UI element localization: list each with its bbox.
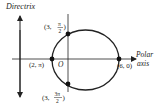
polar-axis-label-polar: Polar <box>135 50 153 59</box>
point-bottom-label-post: ) <box>63 94 66 102</box>
point-bottom-label-num: 3π <box>55 91 61 97</box>
point-bottom-label-den: 2 <box>56 98 59 104</box>
point-left <box>50 57 55 62</box>
polar-axis-label-axis: axis <box>137 59 149 68</box>
point-right <box>117 57 122 62</box>
polar-ellipse-diagram: Directrix (3, π 2 ) (2, π) O (6, 0) Pola… <box>0 0 162 107</box>
point-top-label-den: 2 <box>59 28 62 34</box>
point-top-label-pre: (3, <box>44 23 52 31</box>
point-right-label: (6, 0) <box>117 62 133 70</box>
pole-label: O <box>58 60 64 69</box>
point-top <box>66 32 71 37</box>
directrix-label: Directrix <box>5 2 35 11</box>
point-bottom-label-pre: (3, <box>42 94 50 102</box>
point-top-label-num: π <box>58 21 61 27</box>
point-top-label-post: ) <box>64 23 67 31</box>
point-bottom <box>66 82 71 87</box>
point-left-label: (2, π) <box>29 61 45 69</box>
